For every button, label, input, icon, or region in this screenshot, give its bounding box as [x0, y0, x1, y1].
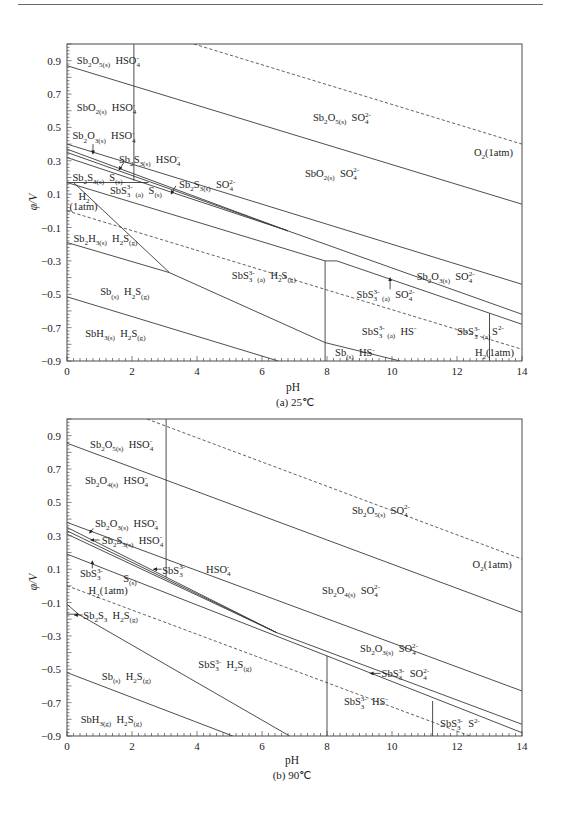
chart-25c: 024681012140.90.70.50.30.1−0.1−0.3−0.5−0…	[27, 44, 528, 409]
region-label: Sb(s) H2S(g)	[102, 671, 152, 685]
y-tick-label: 0.7	[47, 88, 61, 100]
y-tick-label: −0.1	[41, 597, 61, 609]
region-label: SbH3(g) H2S(g)	[81, 714, 143, 728]
region-label: Sb2S3(s) SO42-	[179, 178, 236, 193]
x-tick-label: 2	[129, 740, 135, 752]
y-axis-title: φ/V	[27, 192, 40, 211]
region-labels: Sb2O5(s) HSO4-SbO2(s) HSO4-Sb2O3(s) HSO4…	[70, 54, 515, 361]
boundary-line	[67, 183, 522, 325]
region-label: H2(1atm)	[89, 585, 129, 599]
region-label: Sb2O5(s) SO42-	[352, 503, 411, 518]
x-tick-label: 0	[64, 740, 70, 752]
y-tick-label: −0.3	[41, 255, 61, 267]
figure-caption: (b) 90℃	[273, 769, 312, 782]
reference-line	[194, 44, 522, 144]
region-label: SbO2(s) SO42-	[305, 166, 360, 181]
region-label: Sb2S3(s) HSO4-	[102, 533, 164, 548]
plot-frame	[67, 419, 522, 736]
x-tick-label: 4	[194, 740, 200, 752]
region-label: SbO2(s) HSO4-	[77, 101, 137, 116]
boundary-line	[67, 66, 522, 205]
region-label: Sb2O4(s) SO42-	[322, 583, 381, 598]
plot-frame	[67, 44, 522, 361]
x-tick-label: 10	[387, 365, 399, 377]
x-tick-label: 12	[452, 365, 463, 377]
region-label: Sb2O3(s) HSO4-	[95, 517, 159, 532]
region-label: Sb(s) HS-	[335, 346, 375, 361]
region-label: SbS33- S2-	[440, 717, 481, 732]
x-tick-label: 8	[324, 740, 330, 752]
x-tick-label: 14	[517, 365, 529, 377]
boundary-line	[67, 243, 400, 362]
figure-caption: (a) 25℃	[276, 396, 314, 409]
region-label: SbH3(s) H2S(g)	[85, 328, 146, 342]
x-tick-label: 12	[452, 740, 463, 752]
boundary-line	[67, 144, 522, 284]
phase-boundaries	[67, 44, 522, 361]
x-tick-label: 8	[324, 365, 330, 377]
y-tick-label: 0.5	[47, 121, 61, 133]
boundary-line	[67, 527, 522, 724]
region-label: Sb2S3(s) HSO4-	[119, 153, 181, 168]
x-tick-label: 4	[194, 365, 200, 377]
region-label: Sb2O5(s) SO42-	[313, 111, 372, 126]
y-tick-label: 0.7	[47, 463, 61, 475]
region-label: O2(1atm)	[473, 559, 513, 573]
region-label: S2-	[492, 324, 504, 336]
region-label: SbS33- (a) S(s)	[110, 183, 163, 198]
x-tick-label: 6	[259, 365, 265, 377]
region-label: Sb2O4(s) HSO4-	[85, 474, 149, 489]
y-tick-label: 0.1	[47, 188, 61, 200]
y-tick-label: −0.1	[41, 222, 61, 234]
region-label: SbS33-	[80, 567, 103, 582]
x-tick-label: 6	[259, 740, 265, 752]
region-label: SbS33- HS-	[344, 695, 389, 710]
axis-ticks: 024681012140.90.70.50.30.1−0.1−0.3−0.5−0…	[41, 44, 528, 377]
y-tick-label: 0.5	[47, 496, 61, 508]
y-tick-label: −0.7	[41, 322, 61, 334]
region-label: SbS33- (a) HS-	[362, 324, 417, 339]
x-axis-title: pH	[285, 754, 299, 767]
x-axis-title: pH	[286, 381, 300, 394]
x-tick-label: 0	[64, 365, 70, 377]
boundary-line	[67, 522, 522, 691]
region-label: SbS33- H2S(g)	[198, 658, 252, 673]
y-tick-label: 0.9	[47, 55, 61, 67]
x-tick-label: 10	[387, 740, 399, 752]
figure: 024681012140.90.70.50.30.1−0.1−0.3−0.5−0…	[0, 0, 561, 813]
phase-boundaries	[67, 419, 522, 736]
region-label: H2(1atm)	[475, 347, 515, 361]
region-label: Sb2O3(s) HSO4-	[73, 129, 137, 144]
plot-border	[67, 44, 522, 361]
region-label: Sb2H3(s) H2S(g)	[74, 233, 139, 247]
y-tick-label: −0.5	[41, 663, 61, 675]
pointer-arrows	[74, 528, 380, 673]
y-tick-label: −0.5	[41, 288, 61, 300]
y-tick-label: 0.1	[47, 563, 61, 575]
x-tick-label: 14	[517, 740, 529, 752]
region-label: Sb2O3(s) SO42-	[417, 270, 476, 285]
region-label: (1atm)	[70, 201, 98, 213]
boundary-line	[67, 158, 288, 231]
region-label: Sb2O5(s) HSO4-	[77, 54, 141, 69]
x-tick-label: 2	[129, 365, 135, 377]
y-tick-label: 0.9	[47, 430, 61, 442]
boundary-line	[67, 604, 290, 736]
chart-90c: 024681012140.90.70.50.30.1−0.1−0.3−0.5−0…	[27, 419, 528, 782]
y-tick-label: −0.7	[41, 697, 61, 709]
y-tick-label: 0.3	[47, 155, 61, 167]
region-label: Sb2O5(s) HSO4-	[90, 437, 154, 452]
reference-line	[147, 419, 522, 559]
y-axis-title: φ/V	[27, 572, 40, 591]
region-label: SbS33- (a) SO42-	[357, 288, 416, 303]
y-tick-label: 0.3	[47, 530, 61, 542]
y-tick-label: −0.9	[41, 355, 61, 367]
region-label: Sb2O3(s) SO42-	[360, 642, 419, 657]
region-label: SbS33- (a)	[457, 325, 491, 340]
y-tick-label: −0.3	[41, 630, 61, 642]
plot-border	[67, 419, 522, 736]
region-label: Sb(s) H2S(g)	[100, 286, 150, 300]
y-tick-label: −0.9	[41, 730, 61, 742]
region-label: O2(1atm)	[474, 147, 514, 161]
